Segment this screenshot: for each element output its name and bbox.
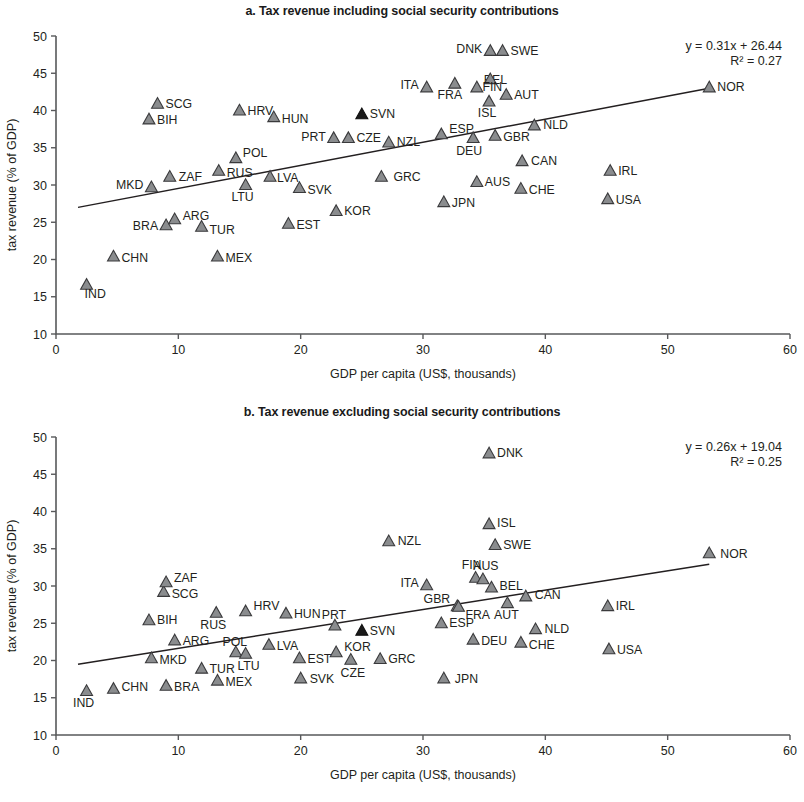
marker-triangle[interactable] — [483, 447, 495, 458]
marker-triangle[interactable] — [449, 77, 461, 88]
data-point-svk[interactable]: SVK — [295, 672, 335, 686]
data-point-can[interactable]: CAN — [516, 154, 557, 168]
data-point-nor[interactable]: NOR — [703, 80, 744, 94]
marker-triangle[interactable] — [604, 165, 616, 176]
data-point-aut[interactable]: AUT — [494, 597, 519, 622]
data-point-chn[interactable]: CHN — [108, 250, 149, 264]
data-point-cze[interactable]: CZE — [341, 654, 366, 680]
marker-triangle[interactable] — [295, 672, 307, 683]
marker-triangle[interactable] — [484, 45, 496, 56]
marker-triangle[interactable] — [435, 617, 447, 628]
data-point-ltu[interactable]: LTU — [231, 179, 253, 204]
data-point-hun[interactable]: HUN — [268, 111, 309, 126]
marker-triangle[interactable] — [383, 535, 395, 546]
marker-triangle[interactable] — [282, 218, 294, 229]
marker-triangle[interactable] — [530, 623, 542, 634]
data-point-est[interactable]: EST — [282, 218, 320, 232]
data-point-mex[interactable]: MEX — [212, 250, 253, 264]
data-point-che[interactable]: CHE — [515, 183, 555, 197]
data-point-ita[interactable]: ITA — [400, 576, 432, 590]
marker-triangle[interactable] — [515, 636, 527, 647]
marker-triangle[interactable] — [471, 81, 483, 92]
marker-triangle[interactable] — [703, 547, 715, 558]
data-point-nzl[interactable]: NZL — [383, 534, 421, 548]
marker-triangle[interactable] — [515, 183, 527, 194]
marker-triangle[interactable] — [375, 171, 387, 182]
marker-triangle[interactable] — [293, 652, 305, 663]
data-point-hun[interactable]: HUN — [280, 607, 321, 621]
marker-triangle[interactable] — [603, 643, 615, 654]
marker-triangle[interactable] — [516, 155, 528, 166]
data-point-mkd[interactable]: MKD — [116, 178, 157, 192]
data-point-aus[interactable]: AUS — [471, 175, 510, 189]
marker-triangle[interactable] — [234, 104, 246, 115]
data-point-deu[interactable]: DEU — [467, 633, 507, 647]
marker-triangle[interactable] — [602, 600, 614, 611]
data-point-mkd[interactable]: MKD — [145, 652, 186, 667]
data-point-kor[interactable]: KOR — [330, 204, 371, 218]
marker-triangle[interactable] — [160, 576, 172, 587]
data-point-prt[interactable]: PRT — [322, 608, 347, 629]
data-point-ita[interactable]: ITA — [400, 78, 432, 92]
marker-triangle[interactable] — [342, 132, 354, 143]
data-point-can[interactable]: CAN — [520, 588, 561, 602]
data-point-arg[interactable]: ARG — [169, 209, 210, 223]
data-point-nzl[interactable]: NZL — [383, 135, 420, 149]
data-point-swe[interactable]: SWE — [489, 538, 531, 552]
marker-triangle[interactable] — [483, 95, 495, 106]
marker-triangle[interactable] — [145, 181, 157, 192]
data-point-usa[interactable]: USA — [602, 193, 642, 207]
marker-triangle[interactable] — [280, 607, 292, 618]
data-point-bih[interactable]: BIH — [143, 113, 177, 127]
data-point-zaf[interactable]: ZAF — [164, 170, 203, 184]
data-point-mex[interactable]: MEX — [212, 674, 253, 688]
marker-triangle[interactable] — [483, 518, 495, 529]
marker-triangle[interactable] — [356, 108, 368, 119]
marker-triangle[interactable] — [169, 213, 181, 224]
data-point-bih[interactable]: BIH — [143, 613, 177, 627]
data-point-ind[interactable]: IND — [73, 685, 94, 710]
marker-triangle[interactable] — [356, 625, 368, 636]
data-point-bra[interactable]: BRA — [133, 219, 172, 233]
data-point-svn[interactable]: SVN — [356, 624, 395, 638]
data-point-grc[interactable]: GRC — [374, 652, 415, 666]
data-point-cze[interactable]: CZE — [342, 131, 381, 145]
marker-triangle[interactable] — [158, 586, 170, 597]
data-point-irl[interactable]: IRL — [604, 164, 637, 178]
marker-triangle[interactable] — [602, 193, 614, 204]
marker-triangle[interactable] — [438, 196, 450, 207]
data-point-hrv[interactable]: HRV — [234, 104, 274, 118]
marker-triangle[interactable] — [196, 662, 208, 673]
marker-triangle[interactable] — [169, 634, 181, 645]
data-point-rus[interactable]: RUS — [200, 607, 226, 632]
marker-triangle[interactable] — [497, 45, 509, 56]
data-point-scg[interactable]: SCG — [152, 97, 193, 111]
data-point-hrv[interactable]: HRV — [240, 599, 280, 615]
marker-triangle[interactable] — [212, 250, 224, 261]
data-point-dnk[interactable]: DNK — [456, 42, 496, 56]
marker-triangle[interactable] — [108, 683, 120, 694]
data-point-aut[interactable]: AUT — [500, 88, 539, 102]
data-point-jpn[interactable]: JPN — [438, 196, 475, 210]
marker-triangle[interactable] — [467, 633, 479, 644]
marker-triangle[interactable] — [328, 132, 340, 143]
marker-triangle[interactable] — [143, 614, 155, 625]
marker-triangle[interactable] — [345, 654, 357, 665]
data-point-lva[interactable]: LVA — [264, 171, 299, 185]
marker-triangle[interactable] — [435, 128, 447, 139]
data-point-arg[interactable]: ARG — [169, 634, 210, 648]
data-point-prt[interactable]: PRT — [301, 130, 339, 144]
marker-triangle[interactable] — [108, 250, 120, 261]
data-point-jpn[interactable]: JPN — [438, 672, 478, 686]
data-point-usa[interactable]: USA — [603, 643, 643, 657]
marker-triangle[interactable] — [213, 165, 225, 176]
marker-triangle[interactable] — [152, 98, 164, 109]
data-point-bel[interactable]: BEL — [486, 579, 523, 593]
data-point-lva[interactable]: LVA — [263, 639, 299, 653]
data-point-fra[interactable]: FRA — [438, 77, 463, 101]
marker-triangle[interactable] — [263, 639, 275, 650]
marker-triangle[interactable] — [489, 539, 501, 550]
data-point-esp[interactable]: ESP — [435, 122, 474, 138]
data-point-isl[interactable]: ISL — [478, 95, 497, 119]
data-point-irl[interactable]: IRL — [602, 599, 635, 613]
